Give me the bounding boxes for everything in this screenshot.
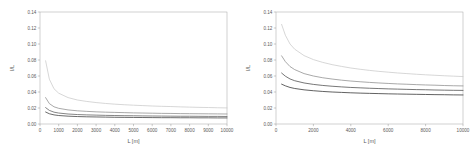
x-tick-label: 10000 bbox=[456, 128, 469, 133]
x-tick-label: 10000 bbox=[221, 128, 234, 133]
figure-container: 0100020003000400050006000700080009000100… bbox=[0, 0, 471, 148]
x-tick-label: 6000 bbox=[147, 128, 158, 133]
y-tick-label: 0.12 bbox=[263, 26, 272, 31]
x-axis-title: L [m] bbox=[363, 138, 376, 144]
y-tick-label: 0.06 bbox=[263, 74, 272, 79]
line-chart-left: 0100020003000400050006000700080009000100… bbox=[0, 0, 236, 148]
plot-frame bbox=[276, 12, 463, 124]
curves-group bbox=[46, 61, 227, 118]
x-tick-label: 2000 bbox=[72, 128, 83, 133]
x-tick-label: 0 bbox=[39, 128, 42, 133]
y-tick-label: 0.02 bbox=[27, 106, 36, 111]
y-axis-title: I/L bbox=[9, 65, 15, 71]
x-tick-label: 1000 bbox=[54, 128, 65, 133]
y-tick-label: 0.08 bbox=[27, 58, 36, 63]
x-tick-label: 6000 bbox=[383, 128, 394, 133]
curves-group bbox=[281, 24, 462, 95]
y-tick-label: 0.10 bbox=[263, 42, 272, 47]
y-tick-label: 0.14 bbox=[263, 10, 272, 15]
x-tick-label: 8000 bbox=[420, 128, 431, 133]
x-tick-label: 5000 bbox=[128, 128, 139, 133]
y-tick-label: 0.00 bbox=[27, 122, 36, 127]
line-chart-right: 02000400060008000100000.000.020.040.060.… bbox=[236, 0, 471, 148]
data-line-curve-2 bbox=[46, 98, 227, 114]
x-tick-label: 4000 bbox=[345, 128, 356, 133]
data-line-curve-3 bbox=[46, 108, 227, 117]
x-tick-label: 7000 bbox=[166, 128, 177, 133]
x-tick-label: 4000 bbox=[110, 128, 121, 133]
y-tick-label: 0.02 bbox=[263, 106, 272, 111]
y-tick-label: 0.14 bbox=[27, 10, 36, 15]
data-line-curve-1 bbox=[46, 61, 227, 108]
x-tick-label: 8000 bbox=[184, 128, 195, 133]
y-tick-label: 0.10 bbox=[27, 42, 36, 47]
chart-left-render: 0100020003000400050006000700080009000100… bbox=[9, 10, 234, 144]
y-tick-label: 0.08 bbox=[263, 58, 272, 63]
x-tick-label: 0 bbox=[274, 128, 277, 133]
chart-panel-left: 0100020003000400050006000700080009000100… bbox=[0, 0, 236, 148]
y-tick-label: 0.06 bbox=[27, 74, 36, 79]
chart-panel-right: 02000400060008000100000.000.020.040.060.… bbox=[236, 0, 471, 148]
x-tick-label: 3000 bbox=[91, 128, 102, 133]
y-tick-label: 0.12 bbox=[27, 26, 36, 31]
x-tick-label: 2000 bbox=[308, 128, 319, 133]
y-tick-label: 0.04 bbox=[27, 90, 36, 95]
chart-right-render: 02000400060008000100000.000.020.040.060.… bbox=[245, 10, 470, 144]
y-tick-label: 0.04 bbox=[263, 90, 272, 95]
x-tick-label: 9000 bbox=[203, 128, 214, 133]
y-tick-label: 0.00 bbox=[263, 122, 272, 127]
y-axis-title: I/L bbox=[245, 65, 251, 71]
data-line-curve-1 bbox=[281, 24, 462, 76]
x-axis-title: L [m] bbox=[127, 138, 140, 144]
data-line-curve-4 bbox=[281, 84, 462, 95]
